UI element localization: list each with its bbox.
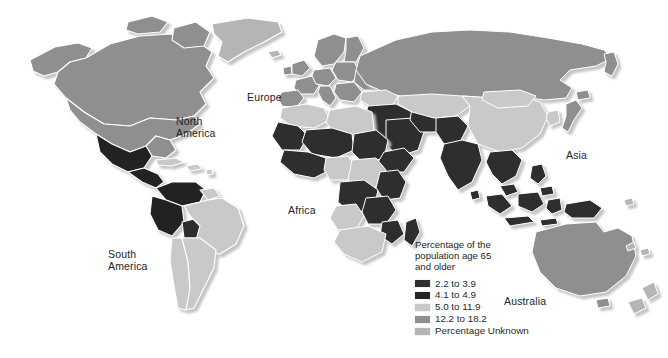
legend-swatch-4-1-to-4-9 <box>415 292 430 299</box>
region-philippines-south <box>540 186 554 196</box>
world-map-figure: North America South America Europe Afric… <box>0 0 668 358</box>
legend-swatch-12-2-to-18-2 <box>415 316 430 323</box>
region-tasmania <box>596 298 610 308</box>
legend-row: 5.0 to 11.9 <box>415 302 585 313</box>
legend-swatch-percentage-unknown <box>415 328 430 335</box>
region-ireland <box>283 66 292 75</box>
region-lesser-antilles <box>206 169 213 175</box>
legend-label-4-1-to-4-9: 4.1 to 4.9 <box>435 290 476 301</box>
legend-label-12-2-to-18-2: 12.2 to 18.2 <box>435 314 487 325</box>
region-fiji <box>640 248 650 256</box>
legend-row: 4.1 to 4.9 <box>415 290 585 301</box>
legend-row: 2.2 to 3.9 <box>415 279 585 290</box>
region-pacific-islands <box>624 198 634 206</box>
legend-swatch-2-2-to-3-9 <box>415 280 430 287</box>
region-hokkaido <box>576 90 590 100</box>
legend-label-percentage-unknown: Percentage Unknown <box>435 326 529 337</box>
legend-label-5-0-to-11-9: 5.0 to 11.9 <box>435 302 481 313</box>
legend-swatch-5-0-to-11-9 <box>415 304 430 311</box>
region-lesser-sunda <box>540 218 558 226</box>
legend-title: Percentage of the population age 65 and … <box>415 239 585 273</box>
map-legend: Percentage of the population age 65 and … <box>415 239 585 338</box>
legend-row: Percentage Unknown <box>415 326 585 337</box>
legend-row: 12.2 to 18.2 <box>415 314 585 325</box>
legend-label-2-2-to-3-9: 2.2 to 3.9 <box>435 279 476 290</box>
region-sri-lanka <box>470 190 480 200</box>
